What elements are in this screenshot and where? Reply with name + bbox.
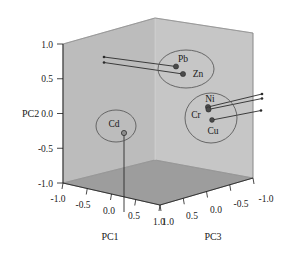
data-point-zn[interactable] [180, 71, 185, 76]
axis-pc3-tick-label: 1.0 [162, 217, 174, 227]
projection-endpoint [260, 109, 263, 112]
projection-endpoint [103, 61, 106, 64]
axis-pc1-tick [86, 189, 87, 195]
axis-pc2-tick-label: -1.0 [38, 179, 53, 189]
axis-pc3-tick [160, 205, 161, 211]
axis-pc3-tick-label: -1.0 [258, 194, 273, 204]
axis-pc3-tick-label: 0.0 [210, 205, 222, 215]
axis-pc2-tick-label: 0.5 [41, 74, 53, 84]
axis-pc1-tick [62, 183, 63, 189]
data-point-cr[interactable] [206, 107, 211, 112]
axis-pc1-tick [135, 200, 136, 206]
plot-canvas: 1.0 0.5 0.0 -0.5 -1.0 PC2 -1.0 -0.5 0.0 … [0, 0, 295, 261]
axis-pc1-tick [111, 194, 112, 200]
axis-pc2: 1.0 0.5 0.0 -0.5 -1.0 PC2 [22, 40, 63, 189]
axis-pc2-tick-label: -0.5 [38, 144, 53, 154]
projection-endpoint [261, 93, 264, 96]
axis-pc3-tick [253, 178, 254, 184]
axis-pc3-tick-label: 0.5 [186, 211, 198, 221]
axis-pc3-tick-label: -0.5 [233, 199, 248, 209]
axis-pc3-tick [230, 185, 231, 191]
axis-title-pc3: PC3 [204, 231, 221, 242]
data-label-pb: Pb [178, 54, 188, 64]
axis-title-pc2: PC2 [22, 108, 39, 119]
axis-pc2-tick-label: 0.0 [41, 109, 53, 119]
axis-pc1-tick-label: 0.0 [103, 206, 115, 216]
wall-back-right [155, 18, 253, 178]
data-point-pb[interactable] [173, 64, 178, 69]
axis-pc1-tick-label: -0.5 [75, 200, 90, 210]
data-point-cu[interactable] [210, 118, 215, 123]
axis-pc3-tick [183, 198, 184, 204]
data-label-zn: Zn [193, 69, 204, 79]
data-label-ni: Ni [205, 94, 215, 104]
data-point-cd[interactable] [121, 130, 126, 135]
data-label-cr: Cr [191, 110, 201, 120]
data-label-cu: Cu [207, 126, 218, 136]
axis-pc1-tick-label: -1.0 [50, 194, 65, 204]
pca-3d-scatter-plot: 1.0 0.5 0.0 -0.5 -1.0 PC2 -1.0 -0.5 0.0 … [0, 0, 295, 261]
projection-endpoint [261, 97, 264, 100]
plot-box [63, 18, 253, 205]
projection-endpoint [103, 56, 106, 59]
data-label-cd: Cd [108, 119, 119, 129]
axis-pc2-tick-label: 1.0 [41, 40, 53, 50]
axis-pc3-tick [207, 192, 208, 198]
wall-back-left [63, 18, 155, 183]
axis-pc1-tick-label: 0.5 [128, 211, 140, 221]
axis-title-pc1: PC1 [101, 231, 118, 242]
